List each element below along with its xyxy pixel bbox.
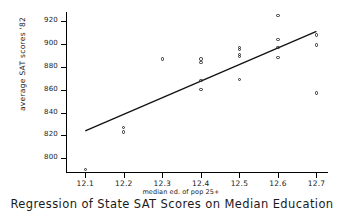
scatter-point: [199, 61, 202, 64]
y-tick-label: 900: [32, 40, 58, 47]
x-tick-mark: [162, 173, 163, 178]
y-tick-label: 920: [32, 17, 58, 24]
x-tick-label: 12.4: [186, 180, 216, 188]
scatter-point: [276, 14, 279, 17]
x-tick-mark: [316, 173, 317, 178]
scatter-point: [276, 46, 279, 49]
x-tick-label: 12.6: [263, 180, 293, 188]
scatter-point: [315, 91, 318, 94]
x-tick-mark: [201, 173, 202, 178]
chart-figure: average SAT scores '82 80082084086088090…: [0, 0, 344, 218]
scatter-point: [315, 33, 318, 36]
scatter-point: [276, 38, 279, 41]
regression-line: [66, 12, 328, 172]
chart-title: Regression of State SAT Scores on Median…: [0, 198, 344, 211]
scatter-point: [199, 88, 202, 91]
x-tick-label: 12.5: [224, 180, 254, 188]
y-tick-label: 880: [32, 63, 58, 70]
y-tick-label: 860: [32, 86, 58, 93]
x-tick-mark: [239, 173, 240, 178]
scatter-point: [315, 43, 318, 46]
plot-area: [66, 12, 328, 172]
scatter-point: [199, 79, 202, 82]
x-tick-label: 12.3: [147, 180, 177, 188]
x-tick-mark: [278, 173, 279, 178]
x-tick-label: 12.2: [109, 180, 139, 188]
x-tick-mark: [85, 173, 86, 178]
y-tick-label: 800: [32, 154, 58, 161]
x-tick-label: 12.7: [301, 180, 331, 188]
y-axis-title: average SAT scores '82: [19, 9, 27, 119]
x-tick-mark: [124, 173, 125, 178]
scatter-point: [161, 57, 164, 60]
y-tick-label: 820: [32, 131, 58, 138]
x-axis-sublabel: median ed. of pop 25+: [0, 189, 344, 196]
x-tick-label: 12.1: [70, 180, 100, 188]
y-tick-label: 840: [32, 109, 58, 116]
x-axis-line: [66, 172, 328, 173]
